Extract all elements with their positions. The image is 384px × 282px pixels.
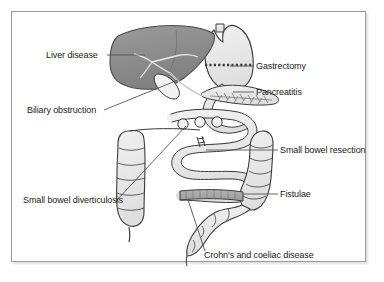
oesophagus bbox=[216, 24, 224, 32]
label-liver-disease: Liver disease bbox=[46, 50, 98, 60]
ascending-colon bbox=[117, 130, 145, 226]
anatomy-illustration bbox=[0, 0, 384, 282]
label-crohns-coeliac: Crohn's and coeliac disease bbox=[204, 250, 314, 260]
appendix bbox=[129, 227, 130, 242]
sigmoid-colon bbox=[187, 205, 250, 256]
figure-root: Liver disease Biliary obstruction Gastre… bbox=[0, 0, 384, 282]
rectum bbox=[186, 256, 187, 266]
organ-group bbox=[110, 24, 278, 266]
label-fistulae: Fistulae bbox=[280, 189, 311, 199]
label-small-bowel-resection: Small bowel resection bbox=[280, 145, 365, 155]
label-gastrectomy: Gastrectomy bbox=[256, 61, 306, 71]
transverse-colon bbox=[130, 129, 200, 131]
label-small-bowel-diverticulosis: Small bowel diverticulosis bbox=[23, 195, 123, 205]
label-pancreatitis: Pancreatitis bbox=[256, 87, 302, 97]
label-biliary-obstruction: Biliary obstruction bbox=[27, 105, 96, 115]
